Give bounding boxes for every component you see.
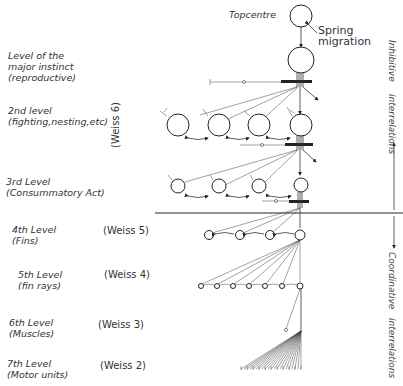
weiss-3-label: (Weiss 3) [98,319,144,330]
coordinative-label: Coordinative [387,252,397,309]
level-line: (fin rays) [18,280,62,291]
topcentre-node [290,5,312,27]
level-major-instinct: Level of the major instinct (reproductiv… [8,50,76,83]
fourth-level-nodes [205,230,306,240]
coordinative-interrelations-label: interrelations [387,318,397,378]
weiss-6-label: (Weiss 6) [110,102,121,148]
level-3rd: 3rd Level (Consummatory Act) [6,176,105,198]
inhibitive-interrelations-label: interrelations [387,94,397,154]
level-line: (Motor units) [7,369,68,380]
topcentre-label: Topcentre [229,9,276,20]
motor-units-fan [241,331,301,369]
level-6th: 6th Level (Muscles) [9,317,54,339]
level-line: (Consummatory Act) [6,187,105,198]
level-2nd: 2nd level (fighting,nesting,etc) [8,105,108,127]
spring-label: Spring migration [318,25,371,47]
level-line: 6th Level [9,317,54,328]
major-instinct-node [288,47,314,73]
level-4th: 4th Level (Fins) [12,224,56,246]
spring-label-line2: migration [318,36,371,47]
weiss-5-label: (Weiss 5) [103,225,149,236]
inhibitive-label: Inhibitive [387,40,397,82]
level-line: (reproductive) [8,72,76,83]
level-line: 5th Level [18,269,62,280]
level-line: (Fins) [12,235,56,246]
level-line: major instinct [8,61,76,72]
level-line: 3rd Level [6,176,105,187]
level-7th: 7th Level (Motor units) [7,358,68,380]
level-line: (fighting,nesting,etc) [8,116,108,127]
level-line: 2nd level [8,105,108,116]
second-level-nodes [167,114,312,136]
level-line: Level of the [8,50,76,61]
level-line: 7th Level [7,358,68,369]
level-line: (Muscles) [9,328,54,339]
level-5th: 5th Level (fin rays) [18,269,62,291]
level-line: 4th Level [12,224,56,235]
fifth-level-nodes [199,283,304,289]
weiss-4-label: (Weiss 4) [104,269,150,280]
weiss-2-label: (Weiss 2) [100,360,146,371]
